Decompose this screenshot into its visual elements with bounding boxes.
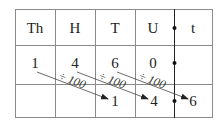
header-tens: T	[110, 20, 119, 36]
operation-label: ÷ 100	[97, 69, 128, 92]
row1-tens: 6	[111, 55, 119, 71]
row2-units: 4	[150, 93, 158, 109]
row1-hundreds: 4	[71, 55, 79, 71]
decimal-point-dot	[173, 61, 177, 65]
header-tenths: t	[191, 20, 196, 36]
header-hundreds: H	[70, 20, 81, 36]
row2-tenths: 6	[189, 93, 197, 109]
decimal-point-dot	[173, 26, 177, 30]
operation-label: ÷ 100	[57, 69, 88, 92]
header-units: U	[148, 20, 159, 36]
operation-label: ÷ 100	[137, 69, 168, 92]
header-thousands: Th	[27, 20, 44, 36]
row1-thousands: 1	[31, 55, 39, 71]
row2-tens: 1	[111, 93, 119, 109]
row1-units: 0	[149, 55, 157, 71]
decimal-point-dot	[173, 99, 177, 103]
place-value-diagram: Th H T U t 1 4 6 0 1 4 6 ÷ 100 ÷ 100 ÷ 1…	[0, 0, 223, 130]
